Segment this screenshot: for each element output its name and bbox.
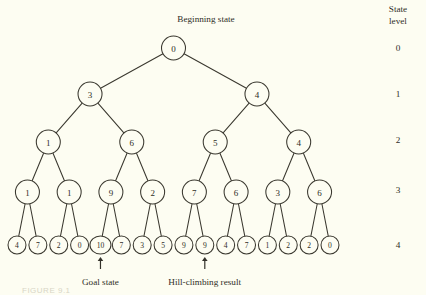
tree-node-l3-3: 2 <box>141 180 165 204</box>
node-value: 1 <box>266 241 270 250</box>
tree-edge <box>30 204 36 236</box>
tree-node-l2-0: 1 <box>36 130 60 154</box>
node-value: 7 <box>245 241 249 250</box>
level-number-2: 2 <box>376 135 420 145</box>
tree-node-l0-0: 0 <box>162 36 186 60</box>
tree-edge <box>197 204 203 236</box>
node-value: 1 <box>46 138 51 148</box>
tree-nodes: 03416541192763647201073599471220 <box>8 36 339 254</box>
tree-node-l4-13: 2 <box>279 236 297 254</box>
tree-edge <box>53 153 65 181</box>
tree-node-l3-5: 6 <box>224 180 248 204</box>
tree-edge <box>186 204 192 236</box>
tree-node-l3-4: 7 <box>182 180 206 204</box>
tree-node-l4-12: 1 <box>258 236 276 254</box>
tree-edge <box>102 204 108 236</box>
tree-diagram: 03416541192763647201073599471220 <box>0 0 426 295</box>
tree-edges <box>19 54 329 236</box>
tree-edge <box>32 153 44 181</box>
tree-edge <box>98 103 124 133</box>
state-level-header-line1: State <box>376 4 420 14</box>
node-value: 3 <box>88 90 93 100</box>
tree-node-l4-1: 7 <box>29 236 47 254</box>
node-value: 2 <box>150 188 155 198</box>
tree-edge <box>223 103 249 133</box>
tree-node-l4-5: 7 <box>112 236 130 254</box>
node-value: 2 <box>286 241 290 250</box>
node-value: 3 <box>140 241 144 250</box>
tree-node-l1-1: 4 <box>245 82 269 106</box>
tree-node-l4-8: 9 <box>175 236 193 254</box>
goal-state-annotation-label: Goal state <box>82 277 119 287</box>
tree-edge <box>280 204 286 236</box>
tree-edge <box>155 204 161 236</box>
tree-node-l3-1: 1 <box>57 180 81 204</box>
node-value: 0 <box>328 241 332 250</box>
tree-edge <box>184 54 246 88</box>
node-value: 0 <box>78 241 82 250</box>
node-value: 2 <box>57 241 61 250</box>
level-number-4: 4 <box>376 240 420 250</box>
tree-edge <box>101 54 163 88</box>
tree-node-l3-7: 6 <box>308 180 332 204</box>
node-value: 10 <box>97 241 105 250</box>
tree-edge <box>220 153 232 181</box>
node-value: 3 <box>276 188 281 198</box>
tree-node-l4-11: 7 <box>238 236 256 254</box>
level-number-1: 1 <box>376 89 420 99</box>
tree-edge <box>144 204 150 236</box>
state-level-header-line2: level <box>376 16 420 26</box>
node-value: 6 <box>234 188 239 198</box>
figure-root: Beginning state 034165411927636472010735… <box>0 0 426 295</box>
tree-edge <box>116 153 128 181</box>
tree-edge <box>322 204 328 236</box>
tree-edge <box>265 103 291 133</box>
node-value: 6 <box>130 138 135 148</box>
tree-node-l4-4: 10 <box>90 236 111 254</box>
tree-edge <box>71 204 77 236</box>
tree-edge <box>199 153 211 181</box>
node-value: 1 <box>25 188 30 198</box>
tree-node-l4-2: 2 <box>50 236 68 254</box>
level-number-3: 3 <box>376 185 420 195</box>
annotation-arrow-head-1 <box>202 257 208 261</box>
tree-node-l4-0: 4 <box>8 236 26 254</box>
hill-climbing-annotation-label: Hill-climbing result <box>168 277 241 287</box>
node-value: 7 <box>192 188 197 198</box>
tree-edge <box>311 204 317 236</box>
level-number-0: 0 <box>376 43 420 53</box>
tree-edge <box>56 103 82 133</box>
tree-edge <box>238 204 244 236</box>
annotation-arrows <box>98 257 208 269</box>
tree-node-l2-3: 4 <box>287 130 311 154</box>
tree-node-l2-2: 5 <box>203 130 227 154</box>
tree-edge <box>303 153 315 181</box>
node-value: 7 <box>119 241 123 250</box>
node-value: 4 <box>15 241 19 250</box>
node-value: 1 <box>67 188 72 198</box>
tree-edge <box>60 204 66 236</box>
annotation-arrow-head-0 <box>98 257 104 261</box>
tree-edge <box>136 153 148 181</box>
tree-node-l4-3: 0 <box>71 236 89 254</box>
node-value: 4 <box>255 90 260 100</box>
tree-node-l2-1: 6 <box>120 130 144 154</box>
tree-node-l4-15: 0 <box>321 236 339 254</box>
tree-node-l3-0: 1 <box>15 180 39 204</box>
node-value: 2 <box>307 241 311 250</box>
node-value: 9 <box>109 188 114 198</box>
node-value: 9 <box>182 241 186 250</box>
tree-node-l4-10: 4 <box>217 236 235 254</box>
node-value: 6 <box>317 188 322 198</box>
node-value: 7 <box>36 241 40 250</box>
node-value: 9 <box>203 241 207 250</box>
tree-node-l4-9: 9 <box>196 236 214 254</box>
node-value: 5 <box>161 241 165 250</box>
node-value: 4 <box>224 241 228 250</box>
tree-edge <box>282 153 294 181</box>
figure-caption: FIGURE 9.1 <box>22 286 71 295</box>
tree-node-l4-14: 2 <box>300 236 318 254</box>
tree-node-l1-0: 3 <box>78 82 102 106</box>
tree-node-l4-7: 5 <box>154 236 172 254</box>
tree-node-l4-6: 3 <box>133 236 151 254</box>
